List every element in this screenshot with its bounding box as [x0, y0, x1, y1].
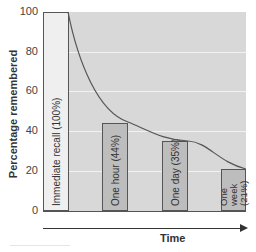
ytick-100: 100 [20, 5, 38, 17]
divider [10, 245, 70, 246]
ytick-60: 60 [26, 84, 38, 96]
forgetting-curve [43, 12, 246, 211]
ytick-20: 20 [26, 164, 38, 176]
ytick-0: 0 [32, 204, 38, 216]
ytick-80: 80 [26, 45, 38, 57]
ytick-40: 40 [26, 124, 38, 136]
x-baseline [43, 211, 246, 212]
x-axis-label: Time [160, 232, 185, 244]
arrow-right-icon [240, 224, 248, 232]
y-axis-label: Percentage remembered [7, 49, 19, 179]
time-axis-line [43, 228, 241, 229]
